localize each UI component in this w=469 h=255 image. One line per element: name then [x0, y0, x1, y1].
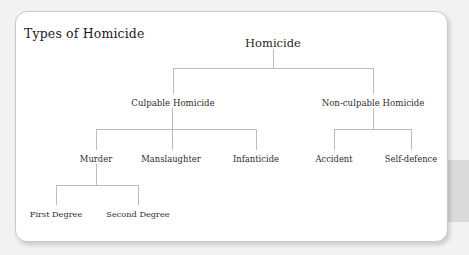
- connector-accident-riser: [334, 129, 335, 150]
- node-self-defence[interactable]: Self-defence: [385, 154, 437, 164]
- node-murder[interactable]: Murder: [80, 154, 112, 164]
- tree-diagram-canvas: Homicide Culpable Homicide Non-culpable …: [16, 12, 447, 241]
- node-second-degree[interactable]: Second Degree: [106, 209, 169, 219]
- connector-murder-riser: [96, 129, 97, 150]
- connector-second-degree-riser: [138, 185, 139, 205]
- diagram-card: Types of Homicide: [15, 11, 448, 242]
- connector-murder-stem: [96, 164, 97, 185]
- connector-non-culpable-stem: [373, 108, 374, 129]
- node-manslaughter[interactable]: Manslaughter: [141, 154, 200, 164]
- page-background: Types of Homicide: [0, 0, 469, 255]
- node-first-degree[interactable]: First Degree: [30, 209, 83, 219]
- node-infanticide[interactable]: Infanticide: [233, 154, 279, 164]
- connector-non-culpable-children-bar: [334, 129, 412, 130]
- connector-murder-children-bar: [56, 185, 139, 186]
- connector-level1-bar: [173, 68, 374, 69]
- connector-first-degree-riser: [56, 185, 57, 205]
- connector-culpable-children-bar: [96, 129, 257, 130]
- connector-infanticide-riser: [256, 129, 257, 150]
- node-homicide[interactable]: Homicide: [245, 36, 301, 50]
- connector-non-culpable-riser: [373, 68, 374, 94]
- connector-self-defence-riser: [411, 129, 412, 150]
- node-non-culpable-homicide[interactable]: Non-culpable Homicide: [322, 98, 425, 108]
- connector-culpable-riser: [173, 68, 174, 94]
- node-accident[interactable]: Accident: [315, 154, 352, 164]
- connector-homicide-stem: [273, 49, 274, 68]
- node-culpable-homicide[interactable]: Culpable Homicide: [131, 98, 214, 108]
